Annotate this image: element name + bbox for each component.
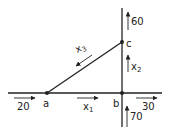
edge-x2-label: x2 — [131, 61, 141, 74]
flow-60-label: 60 — [131, 16, 144, 27]
flow-20-label: 20 — [17, 101, 30, 112]
flow-70-label: 70 — [130, 111, 143, 122]
node-b-dot — [120, 91, 124, 95]
node-b-label: b — [113, 98, 119, 109]
flow-30-label: 30 — [142, 101, 155, 112]
node-a-label: a — [43, 98, 49, 109]
network-flow-diagram: a b c 20 x1 30 70 x2 60 x3 — [0, 0, 171, 133]
node-a-dot — [45, 91, 49, 95]
node-c-dot — [120, 40, 124, 44]
edge-x3-label: x3 — [73, 40, 88, 56]
edge-x1-label: x1 — [83, 101, 93, 114]
node-c-label: c — [126, 38, 132, 49]
